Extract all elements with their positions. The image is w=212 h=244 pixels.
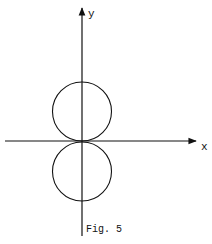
figure-diagram: y x Fig. 5: [0, 0, 212, 244]
x-axis-label: x: [201, 141, 208, 153]
figure-caption: Fig. 5: [86, 224, 122, 235]
y-axis-label: y: [88, 8, 95, 20]
